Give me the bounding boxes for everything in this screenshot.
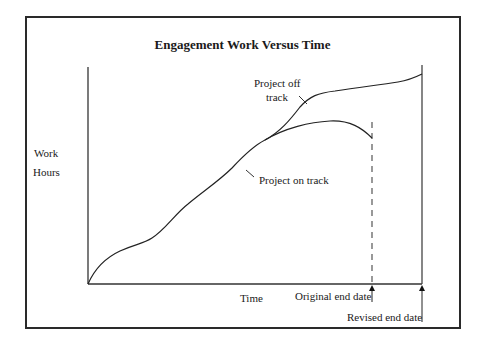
- on-track-curve: [265, 121, 372, 140]
- on-track-leader: [246, 170, 254, 177]
- revised-end-arrowhead-icon: [419, 285, 425, 291]
- original-end-arrowhead-icon: [369, 285, 375, 291]
- off-track-curve: [265, 74, 422, 140]
- shared-curve: [88, 140, 265, 284]
- off-track-leader: [299, 96, 307, 104]
- chart-graphics: [0, 0, 485, 351]
